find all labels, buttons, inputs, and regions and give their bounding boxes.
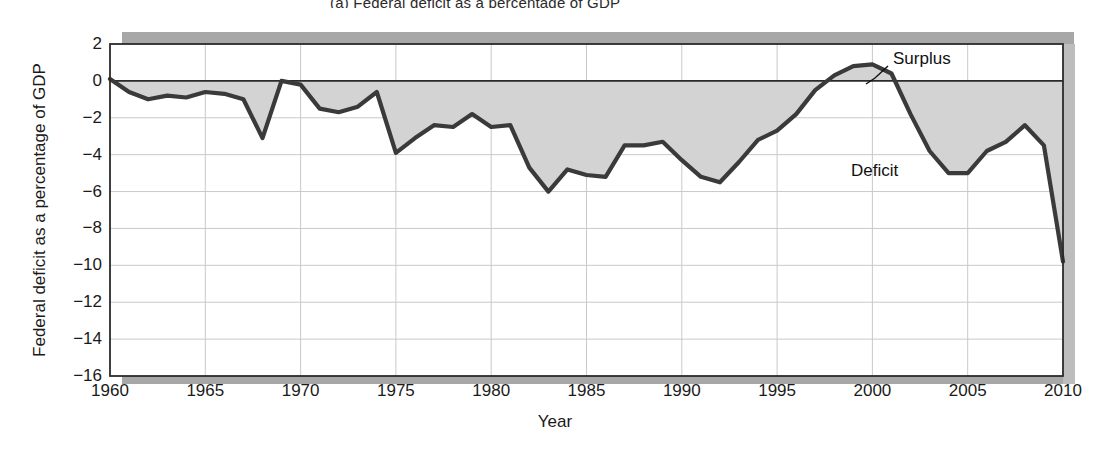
surplus-annotation: Surplus — [893, 49, 951, 69]
deficit-annotation: Deficit — [851, 161, 898, 181]
chart-figure: (a) Federal deficit as a percentage of G… — [0, 0, 1110, 459]
plot-shadow-light — [1063, 44, 1075, 384]
